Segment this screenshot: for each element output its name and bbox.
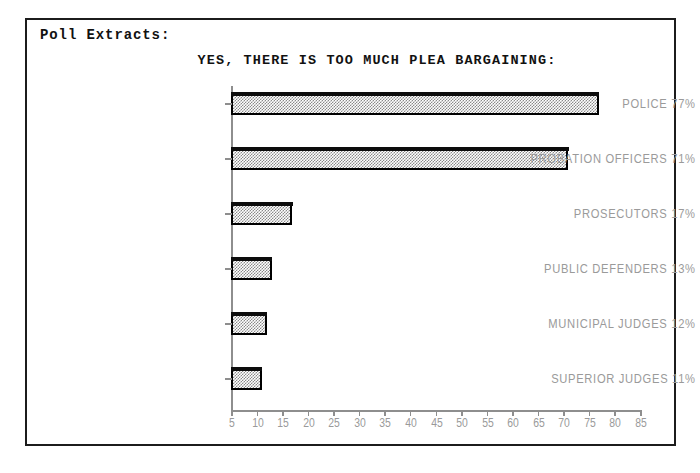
x-axis-tick-label: 40 [405, 415, 417, 430]
category-tick [225, 213, 232, 215]
x-axis-tick-label: 55 [482, 415, 494, 430]
x-axis-tick-label: 5 [229, 415, 235, 430]
x-axis-tick-label: 60 [507, 415, 519, 430]
category-tick [225, 158, 232, 160]
category-tick [225, 103, 232, 105]
bar-municipal-judges [231, 312, 267, 335]
category-label-municipal-judges: MUNICIPAL JUDGES 12% [504, 316, 700, 331]
category-tick [225, 323, 232, 325]
x-axis-tick-label: 75 [584, 415, 596, 430]
category-tick [225, 378, 232, 380]
category-label-police: POLICE 77% [504, 96, 700, 111]
bar-prosecutors [231, 202, 292, 225]
x-axis-tick-label: 30 [354, 415, 366, 430]
x-axis-tick-label: 35 [380, 415, 392, 430]
x-axis-tick-label: 80 [610, 415, 622, 430]
x-axis-tick-label: 20 [303, 415, 315, 430]
x-axis-tick-label: 70 [559, 415, 571, 430]
x-axis-tick-label: 10 [252, 415, 264, 430]
category-label-probation-officers: PROBATION OFFICERS 71% [504, 151, 700, 166]
category-label-public-defenders: PUBLIC DEFENDERS 13% [504, 261, 700, 276]
category-tick [225, 268, 232, 270]
x-axis-tick-label: 15 [277, 415, 289, 430]
x-axis-tick-label: 25 [328, 415, 340, 430]
bar-superior-judges [231, 367, 262, 390]
y-axis-line [231, 86, 233, 411]
x-axis-tick-label: 85 [635, 415, 647, 430]
category-label-prosecutors: PROSECUTORS 17% [504, 206, 700, 221]
bar-public-defenders [231, 257, 272, 280]
x-axis-tick-label: 65 [533, 415, 545, 430]
x-axis-tick-label: 50 [456, 415, 468, 430]
category-label-superior-judges: SUPERIOR JUDGES 11% [504, 371, 700, 386]
x-axis-tick-label: 45 [431, 415, 443, 430]
bar-chart-plot: POLICE 77%PROBATION OFFICERS 71%PROSECUT… [0, 0, 700, 473]
screenshot-page: Poll Extracts: YES, THERE IS TOO MUCH PL… [0, 0, 700, 473]
